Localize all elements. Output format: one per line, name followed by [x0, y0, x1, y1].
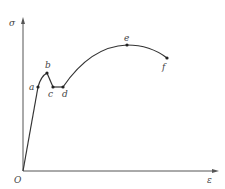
necking-segment [127, 45, 167, 58]
yield-drop-segment [47, 73, 53, 87]
label-b: b [45, 60, 51, 70]
point-a [36, 85, 39, 88]
x-axis-arrow-icon [212, 169, 219, 173]
strain-hardening-segment [63, 45, 127, 87]
label-a: a [29, 82, 34, 92]
label-c: c [48, 89, 53, 99]
point-b [45, 71, 48, 74]
elastic-segment [23, 87, 38, 171]
label-e: e [124, 33, 129, 43]
label-d: d [62, 89, 68, 99]
label-f: f [161, 62, 167, 72]
y-axis-label: σ [9, 18, 16, 28]
point-e [125, 43, 128, 46]
y-axis-arrow-icon [21, 17, 25, 24]
point-f [165, 56, 168, 59]
x-axis-label: ε [207, 175, 212, 185]
yield-rise-segment [38, 73, 47, 87]
stress-strain-diagram: σ ε O a b c d e f [0, 0, 225, 189]
origin-label: O [14, 175, 22, 185]
